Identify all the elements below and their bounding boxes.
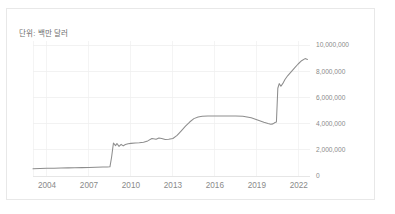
svg-text:2004: 2004	[38, 181, 57, 190]
svg-text:2013: 2013	[164, 181, 183, 190]
x-axis-tick-labels: 2004200720102013201620192022	[38, 181, 308, 190]
svg-text:2019: 2019	[248, 181, 267, 190]
svg-text:0: 0	[316, 172, 320, 179]
svg-text:2007: 2007	[80, 181, 99, 190]
svg-text:2010: 2010	[122, 181, 141, 190]
chart-card: 단위: 백만 달러 02,000,0004,000,0006,000,0008,…	[6, 8, 375, 200]
svg-text:8,000,000: 8,000,000	[316, 68, 346, 75]
vertical-gridlines	[33, 41, 299, 176]
svg-text:2022: 2022	[290, 181, 309, 190]
y-axis-tick-labels: 02,000,0004,000,0006,000,0008,000,00010,…	[316, 41, 349, 179]
svg-text:2016: 2016	[206, 181, 225, 190]
svg-text:4,000,000: 4,000,000	[316, 120, 346, 127]
svg-text:2,000,000: 2,000,000	[316, 146, 346, 153]
data-series-line	[33, 59, 307, 169]
svg-text:6,000,000: 6,000,000	[316, 94, 346, 101]
line-chart-plot: 02,000,0004,000,0006,000,0008,000,00010,…	[7, 9, 376, 201]
svg-text:10,000,000: 10,000,000	[316, 41, 349, 48]
horizontal-gridlines	[33, 45, 310, 176]
